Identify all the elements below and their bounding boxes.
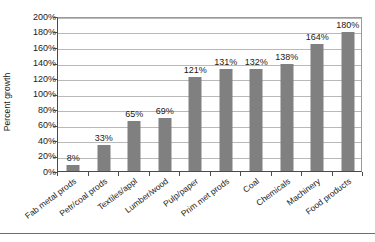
bar-value-label: 33% xyxy=(95,133,113,144)
y-axis-tick-label: 200% xyxy=(16,12,56,23)
y-axis-tick-label: 120% xyxy=(16,74,56,85)
bar xyxy=(250,69,263,171)
bars-layer: 8%33%65%69%121%131%132%138%164%180% xyxy=(58,18,361,171)
bar-group: 131% xyxy=(211,18,242,171)
bar-value-label: 138% xyxy=(275,52,298,63)
bar-value-label: 164% xyxy=(306,32,329,43)
y-axis-tick-label: 20% xyxy=(16,151,56,162)
bar xyxy=(67,165,80,171)
bar xyxy=(280,64,293,171)
y-axis-tick-label: 100% xyxy=(16,89,56,100)
bar-value-label: 121% xyxy=(184,65,207,76)
bar-value-label: 65% xyxy=(125,109,143,120)
bar-value-label: 69% xyxy=(156,106,174,117)
bar xyxy=(189,77,202,171)
y-axis-tick-label: 40% xyxy=(16,136,56,147)
bar-value-label: 131% xyxy=(214,57,237,68)
y-axis-tick-label: 60% xyxy=(16,120,56,131)
bar xyxy=(128,121,141,171)
bar xyxy=(158,118,171,171)
bar xyxy=(341,32,354,172)
bar-group: 164% xyxy=(302,18,333,171)
bar xyxy=(311,44,324,171)
bar-group: 138% xyxy=(272,18,303,171)
bar-group: 132% xyxy=(241,18,272,171)
bar xyxy=(219,69,232,171)
bar-chart-figure: Percent growth 200%180%160%140%120%100%8… xyxy=(0,0,375,242)
y-axis-tick-label: 160% xyxy=(16,43,56,54)
bar-group: 180% xyxy=(333,18,364,171)
y-axis-tick-label: 180% xyxy=(16,27,56,38)
x-axis-category-labels: Fab metal prodsPetr/coal prodsTextiles/a… xyxy=(0,176,375,232)
bar-value-label: 132% xyxy=(245,57,268,68)
y-axis-title-label: Percent growth xyxy=(0,52,14,152)
bottom-divider xyxy=(0,233,375,234)
y-axis-tick-labels: 200%180%160%140%120%100%80%60%40%20%0% xyxy=(16,11,56,179)
y-axis-tick-label: 140% xyxy=(16,58,56,69)
bar-value-label: 180% xyxy=(336,20,359,31)
plot-area: 8%33%65%69%121%131%132%138%164%180% xyxy=(57,17,362,172)
bar xyxy=(97,145,110,171)
bar-group: 65% xyxy=(119,18,150,171)
bar-group: 8% xyxy=(58,18,89,171)
y-axis-tick-label: 80% xyxy=(16,105,56,116)
y-axis-title: Percent growth xyxy=(0,52,14,152)
bar-group: 69% xyxy=(150,18,181,171)
bar-group: 121% xyxy=(180,18,211,171)
bar-group: 33% xyxy=(89,18,120,171)
bar-value-label: 8% xyxy=(67,153,80,164)
